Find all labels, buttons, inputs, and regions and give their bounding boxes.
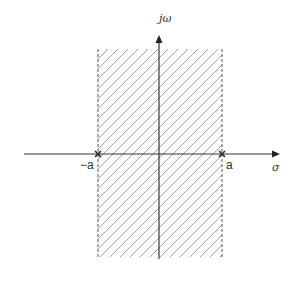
sigma-axis-label: σ — [272, 161, 280, 174]
neg-a-label: −a — [80, 158, 94, 172]
jw-axis-label: jω — [156, 12, 171, 25]
sigma-axis-arrow-icon — [272, 151, 280, 158]
pos-a-label: a — [226, 158, 233, 172]
roc-strip-hatch — [0, 49, 297, 257]
s-plane-diagram: jω σ −a a — [0, 0, 297, 282]
jw-axis-arrow-icon — [156, 35, 163, 43]
